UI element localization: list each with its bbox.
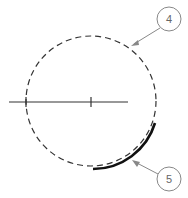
callout-label-5: 5: [166, 173, 172, 185]
arrowhead-5-icon: [132, 160, 140, 167]
callout-5: 5: [132, 160, 181, 191]
callout-label-4: 4: [166, 13, 172, 25]
callout-4: 4: [131, 7, 181, 46]
diagram-canvas: 4 5: [0, 0, 188, 198]
arrowhead-4-icon: [131, 40, 139, 46]
bold-arc: [93, 123, 155, 169]
